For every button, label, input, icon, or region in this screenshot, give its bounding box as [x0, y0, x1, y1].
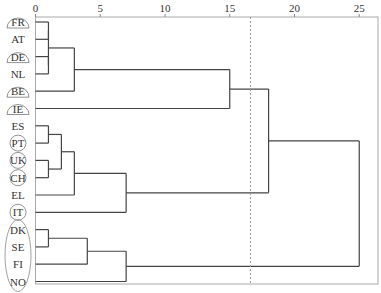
x-tick-label: 10 [160, 2, 172, 14]
leaf-label-at: AT [11, 33, 25, 45]
leaf-label-dk: DK [10, 224, 26, 236]
leaf-labels: FRATDENLBEIEESPTUKCHELITDKSEFINO [5, 16, 31, 292]
leaf-label-es: ES [12, 120, 25, 132]
leaf-label-no: NO [10, 276, 26, 288]
x-tick-label: 25 [354, 2, 366, 14]
leaf-label-uk: UK [10, 154, 26, 166]
x-axis-ticks: 0510152025 [33, 2, 366, 17]
x-tick-label: 20 [289, 2, 301, 14]
x-tick-label: 5 [98, 2, 104, 14]
dendrogram-links [36, 22, 360, 282]
leaf-label-pt: PT [12, 137, 25, 149]
leaf-label-ch: CH [10, 172, 25, 184]
leaf-label-nl: NL [11, 68, 26, 80]
leaf-label-se: SE [12, 241, 25, 253]
x-tick-label: 0 [33, 2, 39, 14]
x-tick-label: 15 [224, 2, 236, 14]
dendrogram-chart: 0510152025 FRATDENLBEIEESPTUKCHELITDKSEF… [0, 0, 381, 293]
leaf-label-it: IT [13, 206, 24, 218]
leaf-label-fi: FI [13, 258, 23, 270]
leaf-label-el: EL [11, 189, 25, 201]
